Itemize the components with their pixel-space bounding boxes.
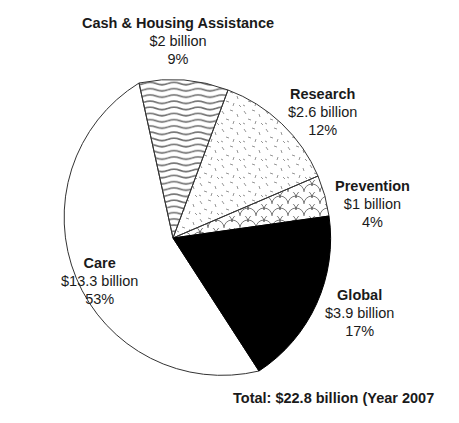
slice-percent: 53%	[61, 290, 138, 308]
slice-name: Global	[325, 286, 394, 304]
label-cash-housing: Cash & Housing Assistance $2 billion 9%	[82, 14, 274, 68]
label-prevention: Prevention $1 billion 4%	[335, 177, 410, 231]
slice-percent: 4%	[335, 213, 410, 231]
slice-percent: 9%	[82, 50, 274, 68]
slice-name: Prevention	[335, 177, 410, 195]
slice-name: Research	[288, 85, 357, 103]
slice-value: $2.6 billion	[288, 103, 357, 121]
total-annotation: Total: $22.8 billion (Year 2007	[233, 390, 434, 406]
slice-percent: 17%	[325, 322, 394, 340]
label-care: Care $13.3 billion 53%	[61, 254, 138, 308]
slice-value: $2 billion	[82, 32, 274, 50]
slice-name: Cash & Housing Assistance	[82, 14, 274, 32]
label-research: Research $2.6 billion 12%	[288, 85, 357, 139]
slice-percent: 12%	[288, 121, 357, 139]
slice-value: $3.9 billion	[325, 304, 394, 322]
slice-name: Care	[61, 254, 138, 272]
slice-value: $13.3 billion	[61, 272, 138, 290]
slice-value: $1 billion	[335, 195, 410, 213]
label-global: Global $3.9 billion 17%	[325, 286, 394, 340]
